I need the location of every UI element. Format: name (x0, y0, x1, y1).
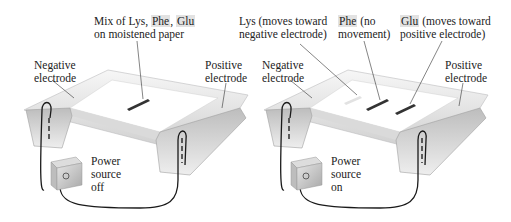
label-line: Positive (205, 59, 242, 71)
power-source-label: Power source off (91, 155, 121, 194)
label-line: (no (357, 15, 375, 27)
label-line: electrode (205, 72, 247, 84)
separator: , (170, 15, 176, 27)
power-state: off (91, 181, 104, 193)
mix-lys: Lys (129, 15, 146, 27)
power-state: on (331, 181, 343, 193)
label-line: positive electrode) (400, 28, 485, 40)
glu-label: Glu (moves toward positive electrode) (400, 15, 491, 41)
phe-label: Phe (no movement) (338, 15, 390, 41)
mix-phe: Phe (151, 15, 170, 27)
lys-name: Lys (239, 15, 256, 27)
label-line: source (331, 168, 361, 180)
positive-electrode-label: Positive electrode (205, 59, 247, 85)
power-box-front (297, 163, 322, 190)
label-line: Negative (262, 59, 304, 71)
positive-electrode-label: Positive electrode (445, 59, 487, 85)
label-line: Positive (445, 59, 482, 71)
negative-electrode-label: Negative electrode (34, 59, 76, 85)
power-box-front (57, 163, 82, 190)
label-line: source (91, 168, 121, 180)
glu-name: Glu (400, 15, 419, 27)
label-line: Power (91, 155, 120, 167)
mix-label: Mix of Lys, Phe, Glu on moistened paper (94, 15, 195, 41)
phe-name: Phe (338, 15, 357, 27)
label-line: electrode (34, 72, 76, 84)
lys-label: Lys (moves toward negative electrode) (239, 15, 327, 41)
negative-electrode-label: Negative electrode (262, 59, 304, 85)
label-line: movement) (338, 28, 390, 40)
label-line: (moves toward (419, 15, 491, 27)
label-line: Negative (34, 59, 76, 71)
label-line: electrode (445, 72, 487, 84)
mix-glu: Glu (176, 15, 195, 27)
mix-label-prefix: Mix of (94, 15, 129, 27)
mix-label-line2: on moistened paper (94, 28, 184, 40)
label-line: Power (331, 155, 360, 167)
label-line: negative electrode) (239, 28, 327, 40)
separator: , (145, 15, 151, 27)
power-source-label: Power source on (331, 155, 361, 194)
label-line: (moves toward (256, 15, 328, 27)
label-line: electrode (262, 72, 304, 84)
